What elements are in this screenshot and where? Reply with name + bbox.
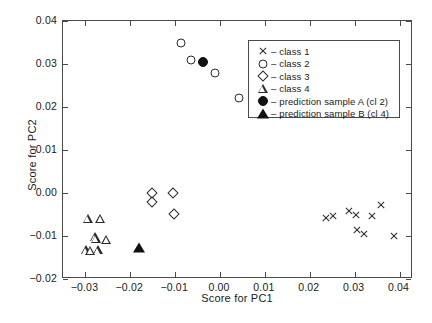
marker-x [259,47,268,56]
legend-dash: – [270,71,279,82]
legend-symbol [256,95,270,107]
legend-dash: – [270,46,279,57]
y-axis-tick-right [406,279,411,280]
legend-symbol [256,45,270,57]
y-axis-title: Score for PC2 [26,75,38,235]
legend-label: class 2 [279,58,309,69]
legend-symbol [256,58,270,70]
marker-circle-filled [258,96,268,106]
scatter-plot-figure: −0.02−0.010.000.010.020.030.04 −0.03−0.0… [0,0,432,323]
legend: –class 1–class 2–class 3–class 4–predict… [248,40,400,118]
marker-triangle-filled [257,108,269,118]
legend-dash: – [270,96,279,107]
legend-label: prediction sample A (cl 2) [279,96,388,107]
legend-item[interactable]: –class 4 [249,83,399,95]
legend-label: class 1 [279,46,309,57]
y-axis-tick [63,279,68,280]
legend-item[interactable]: –prediction sample B (cl 4) [249,108,399,120]
marker-diamond [257,70,268,81]
legend-item[interactable]: –prediction sample A (cl 2) [249,95,399,107]
legend-symbol [256,108,270,120]
y-axis-tick-label: 0.04 [36,14,57,26]
legend-symbol [256,83,270,95]
legend-label: prediction sample B (cl 4) [279,108,389,119]
y-axis-tick-label: 0.02 [36,100,57,112]
legend-item[interactable]: –class 3 [249,70,399,82]
y-axis-tick-label: 0.00 [36,186,57,198]
y-axis-tick-label: 0.03 [36,57,57,69]
legend-label: class 3 [279,71,309,82]
marker-triangle [258,84,268,93]
x-axis-title: Score for PC1 [62,292,412,304]
legend-dash: – [270,58,279,69]
legend-symbol [256,70,270,82]
marker-circle [259,59,268,68]
legend-item[interactable]: –class 2 [249,58,399,70]
legend-item[interactable]: –class 1 [249,45,399,57]
legend-label: class 4 [279,83,309,94]
y-axis-tick-label: −0.02 [29,272,57,284]
legend-dash: – [270,108,279,119]
y-axis-tick-label: 0.01 [36,143,57,155]
legend-dash: – [270,83,279,94]
